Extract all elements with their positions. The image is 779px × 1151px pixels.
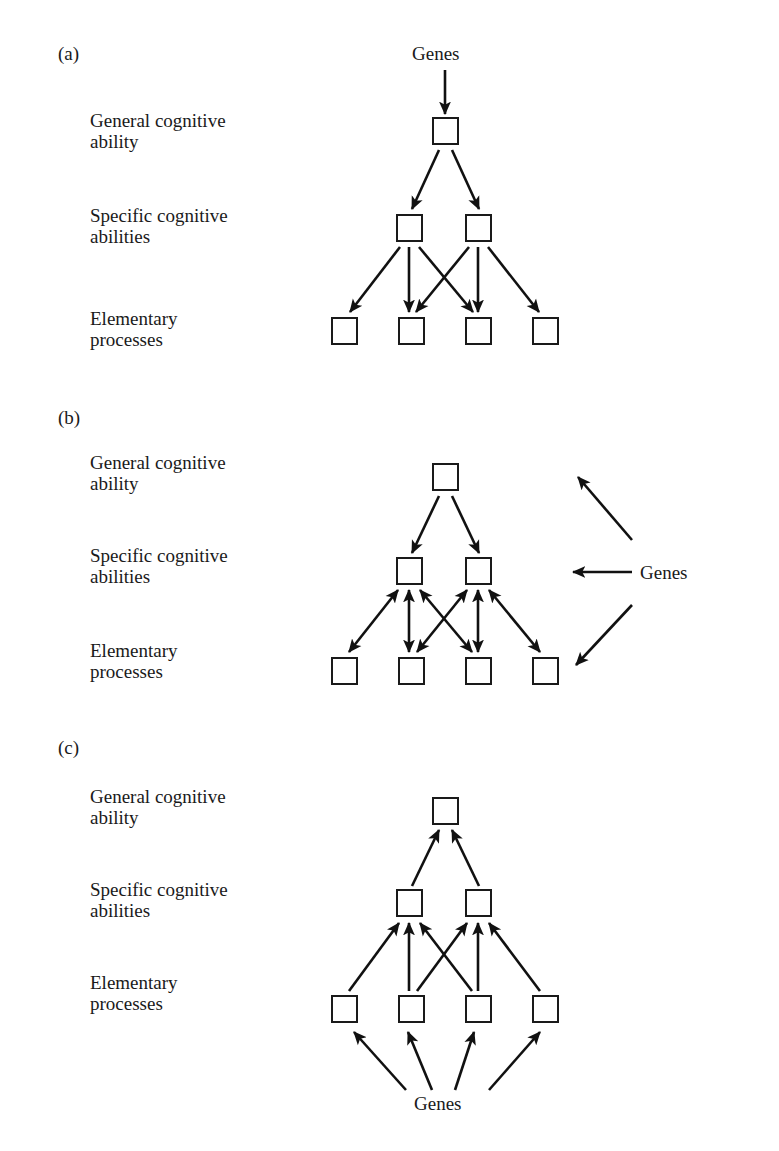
node-general-ability-b — [433, 464, 458, 490]
panel-c-graph — [332, 798, 558, 1090]
node-elementary-b-4 — [533, 658, 558, 684]
row-label-specific-cognitive-abilities-a: Specific cognitive abilities — [90, 205, 228, 247]
node-elementary-c-2 — [399, 996, 424, 1022]
edge-genes-to-elem2-c — [408, 1032, 432, 1090]
edge-specific2-to-elem2-a — [416, 247, 469, 312]
row-label-elementary-processes-c: Elementary processes — [90, 972, 178, 1014]
edge-bidir-specific1-elem1-b — [349, 590, 398, 652]
node-elementary-a-3 — [466, 318, 491, 344]
node-elementary-b-2 — [399, 658, 424, 684]
node-general-ability-c — [433, 798, 458, 824]
edge-specific1-to-general-c — [412, 830, 439, 886]
panel-b-graph — [332, 464, 632, 684]
node-elementary-b-3 — [466, 658, 491, 684]
panel-letter-b: (b) — [58, 408, 80, 427]
node-elementary-b-1 — [332, 658, 357, 684]
node-elementary-c-4 — [533, 996, 558, 1022]
edge-specific1-to-elem3-a — [419, 247, 473, 312]
genes-label-c: Genes — [414, 1094, 461, 1113]
row-label-specific-cognitive-abilities-c: Specific cognitive abilities — [90, 879, 228, 921]
node-general-ability-a — [433, 118, 458, 144]
edge-genes-to-general-b — [578, 477, 632, 540]
row-label-general-cognitive-ability-c: General cognitive ability — [90, 786, 226, 828]
node-specific-ability-c-2 — [466, 890, 491, 916]
edge-bidir-specific2-elem4-b — [489, 590, 540, 652]
edge-specific2-to-general-c — [452, 830, 479, 886]
node-specific-ability-c-1 — [397, 890, 422, 916]
edge-elem2-to-specific2-c — [417, 923, 467, 991]
edge-bidir-specific2-elem2-b — [417, 590, 467, 652]
row-label-general-cognitive-ability-b: General cognitive ability — [90, 452, 226, 494]
row-label-elementary-processes-b: Elementary processes — [90, 640, 178, 682]
node-specific-ability-a-1 — [397, 215, 422, 241]
edge-elem1-to-specific1-c — [349, 923, 399, 991]
panel-a-graph — [332, 70, 558, 344]
genes-label-a: Genes — [412, 44, 459, 63]
edge-general-to-specific-b-2 — [452, 496, 479, 553]
edge-bidir-specific1-elem3-b — [420, 590, 472, 652]
edge-genes-to-elementary-b — [576, 605, 632, 665]
node-elementary-a-4 — [533, 318, 558, 344]
node-specific-ability-a-2 — [466, 215, 491, 241]
node-elementary-a-2 — [399, 318, 424, 344]
row-label-general-cognitive-ability-a: General cognitive ability — [90, 110, 226, 152]
row-label-specific-cognitive-abilities-b: Specific cognitive abilities — [90, 545, 228, 587]
panel-letter-c: (c) — [58, 738, 79, 757]
edge-elem4-to-specific2-c — [489, 923, 540, 991]
node-specific-ability-b-1 — [397, 558, 422, 584]
panel-letter-a: (a) — [58, 44, 79, 63]
node-specific-ability-b-2 — [466, 558, 491, 584]
edge-general-to-specific-b-1 — [412, 496, 439, 553]
edge-genes-to-elem1-c — [354, 1032, 406, 1090]
edge-specific1-to-elem1-a — [350, 247, 400, 312]
edge-genes-to-elem4-c — [489, 1032, 540, 1090]
node-elementary-a-1 — [332, 318, 357, 344]
node-elementary-c-1 — [332, 996, 357, 1022]
row-label-elementary-processes-a: Elementary processes — [90, 308, 178, 350]
edge-general-to-specific-a-2 — [452, 150, 479, 209]
edge-specific2-to-elem4-a — [488, 247, 539, 312]
edge-general-to-specific-a-1 — [412, 150, 439, 209]
figure-canvas: (a) Genes General cognitive ability Spec… — [0, 0, 779, 1151]
genes-label-b: Genes — [640, 563, 687, 582]
edge-elem3-to-specific1-c — [420, 923, 472, 991]
edge-genes-to-elem3-c — [455, 1032, 474, 1090]
node-elementary-c-3 — [466, 996, 491, 1022]
